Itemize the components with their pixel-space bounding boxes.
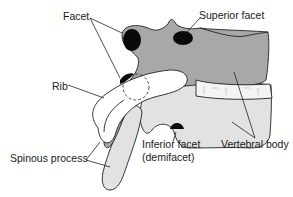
label-superior-facet: Superior facet <box>199 9 264 21</box>
label-facet: Facet <box>63 10 89 22</box>
leader-rib <box>68 85 104 98</box>
label-spinous-process: Spinous process <box>10 152 88 164</box>
label-rib: Rib <box>52 80 68 92</box>
superior-facet <box>173 31 193 45</box>
label-inferior-facet-line2: (demifacet) <box>142 151 195 163</box>
transverse-facet <box>123 29 141 51</box>
vertebra-diagram: Facet Superior facet Rib Spinous process… <box>0 0 293 197</box>
label-vertebral-body: Vertebral body <box>221 138 289 150</box>
leader-facet-2 <box>90 18 120 78</box>
leader-facet-1 <box>90 18 122 33</box>
leader-spinous-1 <box>86 142 100 160</box>
label-inferior-facet-line1: Inferior facet <box>142 138 200 150</box>
